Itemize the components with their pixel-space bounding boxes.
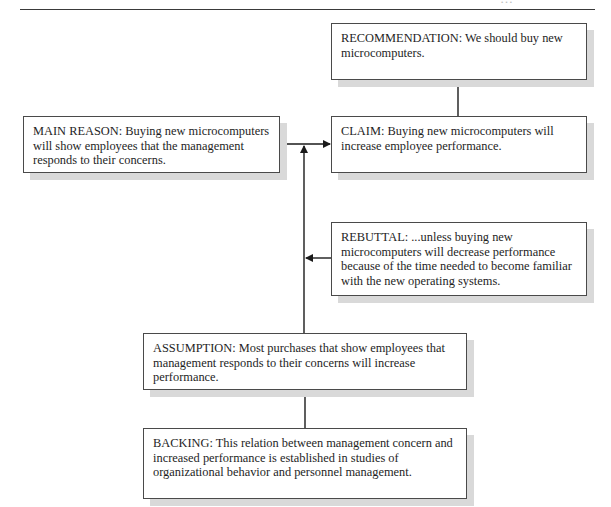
assumption-box: ASSUMPTION: Most purchases that show emp… [143, 333, 467, 390]
claim-box: CLAIM: Buying new microcomputers will in… [331, 116, 587, 173]
rebuttal-box: REBUTTAL: ...unless buying new microcomp… [331, 222, 587, 296]
recommendation-box: RECOMMENDATION: We should buy new microc… [331, 23, 587, 80]
backing-box: BACKING: This relation between managemen… [143, 428, 467, 499]
rebuttal-label: REBUTTAL: [341, 230, 408, 244]
claim-label: CLAIM: [341, 124, 384, 138]
header-rule [20, 9, 595, 10]
page-header-fragment: … [500, 0, 610, 4]
backing-label: BACKING: [153, 436, 213, 450]
main-reason-box: MAIN REASON: Buying new microcomputers w… [23, 116, 280, 173]
main-reason-label: MAIN REASON: [33, 124, 122, 138]
assumption-label: ASSUMPTION: [153, 341, 236, 355]
recommendation-label: RECOMMENDATION: [341, 31, 462, 45]
